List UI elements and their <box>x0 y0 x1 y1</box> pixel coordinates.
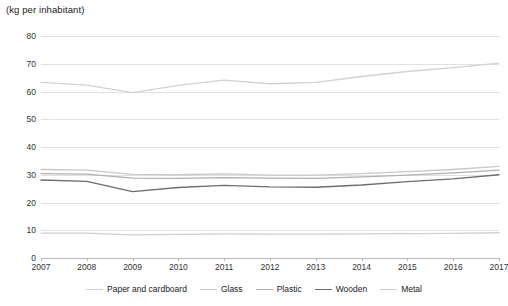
chart-figure: (kg per inhabitant) Paper and cardboardG… <box>0 0 508 306</box>
y-axis-tick-label: 60 <box>12 87 36 97</box>
x-axis-tick-mark <box>41 258 42 261</box>
chart-legend: Paper and cardboardGlassPlasticWoodenMet… <box>0 284 508 294</box>
legend-item[interactable]: Glass <box>200 284 243 294</box>
legend-line-icon <box>200 289 217 290</box>
y-axis-tick-label: 80 <box>12 31 36 41</box>
legend-item[interactable]: Plastic <box>256 284 302 294</box>
y-axis-tick-label: 50 <box>12 114 36 124</box>
x-axis-tick-mark <box>499 258 500 261</box>
x-axis-tick-mark <box>178 258 179 261</box>
y-axis-tick-label: 30 <box>12 170 36 180</box>
legend-line-icon <box>380 289 397 290</box>
legend-line-icon <box>256 289 273 290</box>
x-axis-tick-mark <box>453 258 454 261</box>
legend-line-icon <box>315 289 332 290</box>
x-axis-tick-label: 2017 <box>490 262 508 272</box>
y-axis-tick-label: 10 <box>12 225 36 235</box>
x-axis-tick-mark <box>133 258 134 261</box>
series-line <box>41 233 499 235</box>
x-axis-tick-label: 2013 <box>306 262 325 272</box>
legend-label: Metal <box>401 284 422 294</box>
legend-item[interactable]: Metal <box>380 284 422 294</box>
x-axis-tick-label: 2016 <box>444 262 463 272</box>
x-axis-tick-mark <box>224 258 225 261</box>
x-axis-tick-label: 2009 <box>123 262 142 272</box>
x-axis-tick-mark <box>270 258 271 261</box>
x-axis-tick-label: 2011 <box>215 262 233 272</box>
legend-label: Glass <box>221 284 243 294</box>
series-line <box>41 175 499 192</box>
y-axis-tick-label: 70 <box>12 59 36 69</box>
legend-label: Plastic <box>277 284 302 294</box>
y-axis-unit-title: (kg per inhabitant) <box>6 4 84 15</box>
y-axis-tick-label: 20 <box>12 198 36 208</box>
legend-item[interactable]: Wooden <box>315 284 368 294</box>
legend-label: Paper and cardboard <box>107 284 187 294</box>
legend-line-icon <box>86 289 103 290</box>
x-axis-tick-mark <box>362 258 363 261</box>
legend-label: Wooden <box>336 284 368 294</box>
x-axis-tick-mark <box>87 258 88 261</box>
x-axis-tick-label: 2007 <box>32 262 51 272</box>
x-axis-tick-label: 2010 <box>169 262 188 272</box>
series-layer <box>41 36 499 258</box>
x-axis-tick-mark <box>316 258 317 261</box>
x-axis-tick-label: 2008 <box>77 262 96 272</box>
legend-item[interactable]: Paper and cardboard <box>86 284 187 294</box>
series-line <box>41 170 499 178</box>
series-line <box>41 63 499 92</box>
x-axis-tick-mark <box>407 258 408 261</box>
y-axis-tick-label: 40 <box>12 142 36 152</box>
x-axis-tick-label: 2012 <box>261 262 280 272</box>
x-axis-tick-label: 2015 <box>398 262 417 272</box>
x-axis-tick-label: 2014 <box>352 262 371 272</box>
